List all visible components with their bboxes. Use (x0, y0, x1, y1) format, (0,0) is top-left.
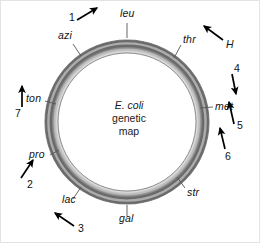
marker-label-1: 1 (69, 12, 75, 23)
marker-label-5: 5 (237, 120, 243, 131)
gene-label-ton: ton (26, 93, 41, 104)
marker-label-H: H (226, 39, 234, 50)
arrow-1 (77, 8, 97, 20)
leader-azi (73, 44, 81, 56)
arrow-6 (220, 128, 225, 149)
arrow-H (204, 26, 223, 40)
arrow-4 (232, 74, 236, 94)
leader-thr (174, 45, 181, 58)
map-center-caption: E. coli genetic map (77, 99, 181, 138)
marker-label-4: 4 (234, 63, 240, 74)
gene-label-str: str (187, 187, 199, 198)
gene-label-lac: lac (62, 194, 76, 205)
gene-label-azi: azi (58, 30, 72, 41)
arrow-3 (55, 213, 74, 226)
gene-label-thr: thr (183, 34, 196, 45)
marker-label-6: 6 (225, 151, 231, 162)
caption-line-3: map (77, 125, 181, 138)
gene-label-met: met (215, 101, 233, 112)
species-name: E. coli (77, 99, 181, 112)
marker-label-2: 2 (27, 179, 33, 190)
gene-label-leu: leu (120, 8, 135, 19)
caption-line-2: genetic (77, 112, 181, 125)
ecoli-genetic-map-figure: E. coli genetic map leu thr met str gal … (0, 0, 260, 243)
gene-label-gal: gal (119, 213, 134, 224)
arrow-2 (21, 160, 33, 178)
marker-label-3: 3 (78, 223, 84, 234)
gene-label-pro: pro (29, 149, 45, 160)
marker-label-7: 7 (15, 108, 21, 119)
